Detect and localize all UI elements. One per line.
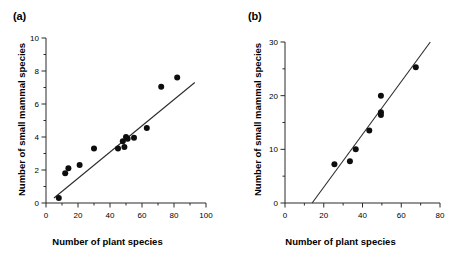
x-tick-label: 60: [397, 211, 406, 220]
data-point: [62, 170, 68, 176]
x-tick-label: 60: [138, 211, 147, 220]
data-point: [115, 146, 121, 152]
data-point: [378, 109, 384, 115]
data-point: [347, 158, 353, 164]
data-point: [65, 165, 71, 171]
panel-a-plot: 0246810020406080100: [0, 0, 228, 261]
data-point: [91, 146, 97, 152]
x-tick-label: 0: [283, 211, 288, 220]
x-tick-label: 20: [319, 211, 328, 220]
x-tick-label: 80: [436, 211, 445, 220]
y-tick-label: 6: [35, 100, 40, 109]
x-tick-label: 0: [44, 211, 49, 220]
regression-line: [312, 42, 430, 203]
y-tick-label: 0: [274, 199, 279, 208]
data-point: [125, 136, 131, 142]
y-tick-label: 10: [30, 34, 39, 43]
y-tick-label: 10: [269, 145, 278, 154]
data-point: [174, 75, 180, 81]
y-tick-label: 30: [269, 38, 278, 47]
panel-a: (a) 0246810020406080100 Number of small …: [0, 0, 228, 261]
data-point: [378, 93, 384, 99]
data-point: [353, 146, 359, 152]
panel-b: (b) 0102030020406080 Number of small mam…: [228, 0, 453, 261]
x-tick-label: 40: [106, 211, 115, 220]
panel-b-y-axis-label: Number of small mammal species: [252, 43, 263, 196]
y-tick-label: 20: [269, 92, 278, 101]
x-tick-label: 20: [74, 211, 83, 220]
x-tick-label: 80: [170, 211, 179, 220]
y-tick-label: 2: [35, 166, 40, 175]
panel-b-x-axis-label: Number of plant species: [228, 236, 453, 247]
x-tick-label: 100: [199, 211, 213, 220]
data-point: [56, 195, 62, 201]
data-point: [144, 125, 150, 131]
data-point: [158, 84, 164, 90]
y-tick-label: 0: [35, 199, 40, 208]
figure-scatterplot-pair: (a) 0246810020406080100 Number of small …: [0, 0, 453, 261]
data-point: [331, 161, 337, 167]
y-tick-label: 8: [35, 67, 40, 76]
data-point: [413, 64, 419, 70]
data-point: [77, 162, 83, 168]
panel-a-y-axis-label: Number of small mammal species: [16, 43, 27, 196]
data-point: [366, 128, 372, 134]
data-point: [131, 135, 137, 141]
x-tick-label: 40: [358, 211, 367, 220]
panel-a-x-axis-label: Number of plant species: [0, 236, 215, 247]
y-tick-label: 4: [35, 133, 40, 142]
data-point: [121, 144, 127, 150]
